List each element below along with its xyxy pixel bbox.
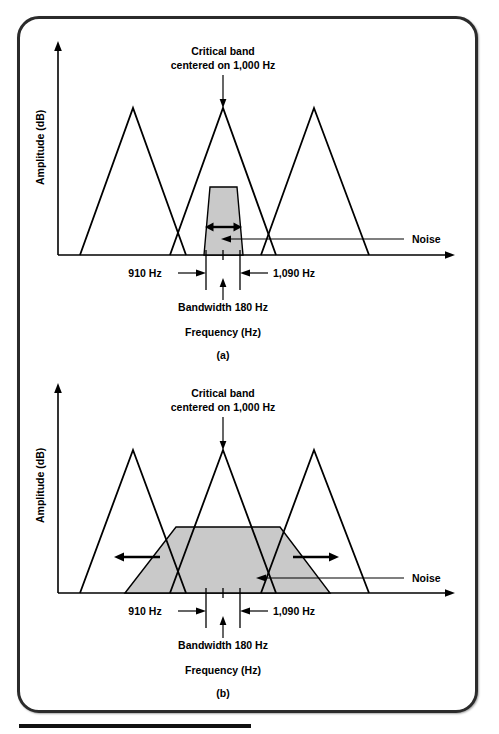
panel-b-noise-label: Noise bbox=[412, 572, 441, 584]
panel-a-critical-band-label-line1: Critical band bbox=[191, 45, 255, 57]
panel-a-x-axis bbox=[58, 251, 455, 259]
panel-b-left-freq-label: 910 Hz bbox=[128, 605, 161, 617]
panel-a-right-freq-arrow bbox=[240, 269, 268, 276]
panel-b-critical-band-label-line1: Critical band bbox=[191, 387, 255, 399]
panel-b-y-axis-label: Amplitude (dB) bbox=[34, 448, 46, 523]
panel-a-critical-band-label-line2: centered on 1,000 Hz bbox=[171, 59, 275, 71]
panel-a-y-axis-label: Amplitude (dB) bbox=[34, 110, 46, 185]
panel-b-bandwidth-label: Bandwidth 180 Hz bbox=[178, 639, 268, 651]
panel-b: Amplitude (dB) Critical band centered on… bbox=[0, 370, 499, 734]
panel-a-bandwidth-label: Bandwidth 180 Hz bbox=[178, 301, 268, 313]
panel-a-noise-pointer bbox=[221, 235, 404, 242]
panel-b-bandwidth-pointer-arrow bbox=[220, 616, 227, 638]
panel-a-noise-label: Noise bbox=[412, 233, 441, 245]
panel-a-y-axis bbox=[54, 41, 62, 255]
bottom-rule bbox=[19, 724, 251, 728]
panel-a-x-axis-label: Frequency (Hz) bbox=[185, 326, 261, 338]
panel-a: Amplitude (dB) Critical band centered on… bbox=[0, 0, 499, 370]
panel-a-tone-triangle-1 bbox=[80, 108, 186, 255]
panel-a-right-freq-label: 1,090 Hz bbox=[273, 267, 315, 279]
panel-b-x-axis-label: Frequency (Hz) bbox=[185, 664, 261, 676]
panel-b-critical-band-pointer-arrow bbox=[220, 417, 227, 450]
panel-b-y-axis bbox=[54, 383, 62, 593]
panel-b-caption: (b) bbox=[216, 687, 229, 699]
panel-b-left-freq-arrow bbox=[178, 607, 206, 614]
panel-a-bandwidth-pointer-arrow bbox=[220, 278, 227, 300]
panel-a-noise-band-shape bbox=[204, 187, 243, 255]
panel-a-left-freq-arrow bbox=[178, 269, 206, 276]
panel-b-right-freq-arrow bbox=[240, 607, 268, 614]
panel-b-noise-band-shape bbox=[125, 527, 330, 593]
panel-a-tone-triangle-3 bbox=[261, 108, 369, 255]
panel-b-critical-band-label-line2: centered on 1,000 Hz bbox=[171, 401, 275, 413]
figure-root: Amplitude (dB) Critical band centered on… bbox=[0, 0, 499, 734]
panel-a-left-freq-label: 910 Hz bbox=[128, 267, 161, 279]
panel-a-caption: (a) bbox=[217, 349, 230, 361]
panel-a-critical-band-pointer-arrow bbox=[220, 75, 227, 108]
panel-b-right-freq-label: 1,090 Hz bbox=[273, 605, 315, 617]
